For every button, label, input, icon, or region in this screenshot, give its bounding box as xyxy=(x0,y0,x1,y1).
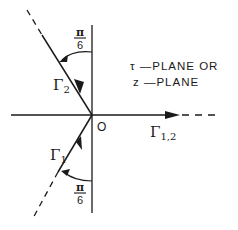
lower-angle-arc xyxy=(64,172,92,181)
gamma-2-label: Γ2 xyxy=(53,76,70,95)
plane-title-line-1: τ —PLANE OR xyxy=(130,60,218,72)
gamma-12-arrow-icon xyxy=(165,111,180,119)
gamma-1-ray-dashed xyxy=(32,172,58,220)
plane-title-line-2: z —PLANE xyxy=(133,76,199,88)
gamma-2-arrow-icon xyxy=(74,79,84,94)
complex-plane-diagram: π 6 π 6 Γ2 Γ1 Γ1,2 O τ —PLANE OR z —PLAN… xyxy=(0,0,238,230)
lower-angle-numerator: π xyxy=(76,181,84,194)
gamma-12-label: Γ1,2 xyxy=(150,123,176,142)
origin-label: O xyxy=(97,120,106,134)
upper-angle-denominator: 6 xyxy=(77,39,83,51)
gamma-1-label: Γ1 xyxy=(50,146,67,165)
upper-angle-numerator: π xyxy=(76,26,84,39)
gamma-2-ray xyxy=(42,35,92,115)
lower-angle-denominator: 6 xyxy=(77,194,83,206)
upper-angle-arrow-icon xyxy=(59,55,68,62)
gamma-2-ray-dashed xyxy=(27,10,42,35)
